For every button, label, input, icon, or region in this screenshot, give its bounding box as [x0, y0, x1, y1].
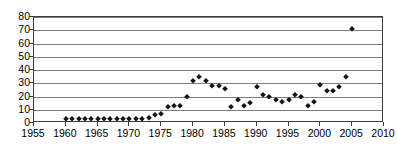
- x-tick-mark-1955: [33, 122, 34, 126]
- x-tick-mark-1995: [288, 122, 289, 126]
- gridline-y-10: [34, 110, 382, 111]
- data-point: [215, 83, 221, 89]
- data-point: [266, 93, 272, 99]
- data-point: [196, 74, 202, 80]
- x-tick-label-1960: 1960: [53, 128, 76, 139]
- x-tick-mark-2000: [319, 122, 320, 126]
- y-tick-label-60: 60: [2, 37, 30, 48]
- x-tick-label-1970: 1970: [117, 128, 140, 139]
- data-point: [114, 116, 120, 122]
- x-tick-label-1985: 1985: [212, 128, 235, 139]
- data-point: [145, 115, 151, 121]
- y-tick-mark-70: [29, 29, 33, 30]
- x-tick-label-1990: 1990: [244, 128, 267, 139]
- x-tick-mark-1980: [192, 122, 193, 126]
- x-tick-mark-2010: [383, 122, 384, 126]
- x-tick-mark-1960: [65, 122, 66, 126]
- data-point: [343, 74, 349, 80]
- data-point: [95, 116, 101, 122]
- x-tick-label-1995: 1995: [276, 128, 299, 139]
- x-tick-label-2005: 2005: [339, 128, 362, 139]
- x-tick-mark-1965: [97, 122, 98, 126]
- scatter-chart: 01020304050607080 1955196019651970197519…: [0, 0, 397, 156]
- data-point: [241, 103, 247, 109]
- x-tick-mark-1990: [256, 122, 257, 126]
- y-tick-mark-40: [29, 69, 33, 70]
- gridline-y-50: [34, 57, 382, 58]
- data-point: [88, 116, 94, 122]
- x-tick-label-1975: 1975: [149, 128, 172, 139]
- y-tick-label-30: 30: [2, 77, 30, 88]
- data-point: [184, 93, 190, 99]
- data-point: [75, 116, 81, 122]
- y-tick-label-20: 20: [2, 90, 30, 101]
- data-point: [336, 84, 342, 90]
- data-point: [222, 85, 228, 91]
- x-axis-labels: 1955196019651970197519801985199019952000…: [0, 128, 397, 144]
- data-point: [247, 100, 253, 106]
- x-tick-mark-1975: [160, 122, 161, 126]
- gridline-y-30: [34, 83, 382, 84]
- gridline-y-20: [34, 97, 382, 98]
- x-tick-label-2000: 2000: [308, 128, 331, 139]
- y-tick-mark-30: [29, 82, 33, 83]
- data-point: [126, 116, 132, 122]
- x-tick-label-2010: 2010: [371, 128, 394, 139]
- y-axis-labels: 01020304050607080: [0, 16, 30, 122]
- data-point: [311, 99, 317, 105]
- data-point: [139, 116, 145, 122]
- data-point: [330, 88, 336, 94]
- data-point: [324, 88, 330, 94]
- plot-area: [33, 16, 383, 122]
- y-tick-mark-20: [29, 96, 33, 97]
- y-tick-label-50: 50: [2, 51, 30, 62]
- data-point: [305, 103, 311, 109]
- gridline-y-70: [34, 30, 382, 31]
- x-tick-mark-1985: [224, 122, 225, 126]
- gridline-y-80: [34, 17, 382, 18]
- y-tick-label-0: 0: [2, 117, 30, 128]
- x-tick-label-1965: 1965: [85, 128, 108, 139]
- y-tick-label-80: 80: [2, 11, 30, 22]
- x-tick-mark-2005: [351, 122, 352, 126]
- y-tick-label-10: 10: [2, 104, 30, 115]
- y-tick-label-70: 70: [2, 24, 30, 35]
- y-tick-mark-50: [29, 56, 33, 57]
- data-point: [69, 116, 75, 122]
- y-tick-mark-60: [29, 43, 33, 44]
- y-tick-label-40: 40: [2, 64, 30, 75]
- data-point: [279, 99, 285, 105]
- gridline-y-60: [34, 44, 382, 45]
- data-point: [254, 84, 260, 90]
- data-point: [273, 97, 279, 103]
- data-point: [177, 103, 183, 109]
- data-point: [235, 97, 241, 103]
- data-point: [285, 97, 291, 103]
- data-point: [107, 116, 113, 122]
- y-tick-mark-10: [29, 109, 33, 110]
- x-tick-mark-1970: [128, 122, 129, 126]
- y-tick-mark-80: [29, 16, 33, 17]
- x-tick-label-1980: 1980: [180, 128, 203, 139]
- gridline-y-40: [34, 70, 382, 71]
- data-point: [298, 93, 304, 99]
- x-tick-label-1955: 1955: [21, 128, 44, 139]
- data-point: [158, 111, 164, 117]
